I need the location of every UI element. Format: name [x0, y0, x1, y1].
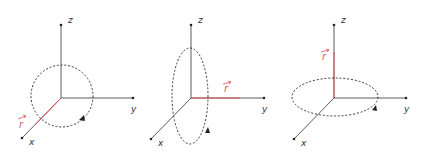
x-axis-label: x	[157, 138, 164, 148]
y-axis-label: y	[403, 104, 410, 114]
y-axis-tip-icon	[263, 97, 266, 100]
x-axis-tip-icon	[21, 137, 24, 140]
z-axis-label: z	[67, 15, 73, 25]
x-axis-label: x	[28, 137, 35, 147]
x-axis-tip-icon	[293, 138, 296, 141]
panel-rotation-about-z: z y x r	[292, 15, 410, 148]
z-axis-label: z	[340, 15, 346, 25]
z-axis-label: z	[197, 15, 203, 25]
panel-rotation-about-x: z y x r	[18, 15, 137, 147]
y-axis-tip-icon	[132, 97, 135, 100]
rotation-orbit	[292, 78, 378, 116]
r-vector-label: r	[19, 119, 24, 130]
panel-rotation-about-y: z y x r	[150, 15, 268, 148]
x-axis	[294, 98, 334, 139]
z-axis-tip-icon	[333, 24, 336, 27]
y-axis-label: y	[130, 104, 137, 114]
y-axis-tip-icon	[405, 97, 408, 100]
rotation-arrow-icon	[205, 127, 210, 133]
x-axis	[151, 98, 191, 139]
r-vector-label: r	[322, 51, 327, 62]
z-axis-tip-icon	[60, 24, 63, 27]
rotation-arrow-icon	[372, 105, 377, 111]
x-axis-label: x	[300, 138, 307, 148]
y-axis-label: y	[261, 104, 268, 114]
rotation-arrow-icon	[79, 115, 85, 121]
r-vector-label: r	[224, 83, 229, 94]
x-axis-tip-icon	[150, 138, 153, 141]
r-vector	[35, 98, 61, 125]
rotation-diagrams: z y x r z y x r z	[0, 0, 427, 154]
z-axis-tip-icon	[190, 24, 193, 27]
rotation-orbit	[172, 48, 208, 144]
